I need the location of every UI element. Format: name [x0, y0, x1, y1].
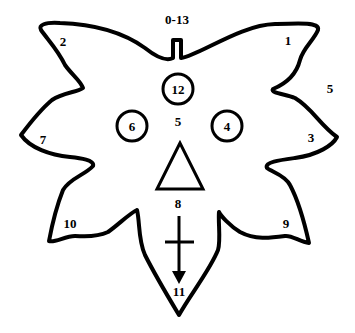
label-6: 6 — [129, 119, 136, 134]
label-12: 12 — [172, 82, 185, 97]
label-top: 0-13 — [165, 12, 189, 27]
label-4: 4 — [224, 119, 231, 134]
label-7: 7 — [40, 132, 47, 147]
leaf-diagram: 0-13 1 2 5 3 7 12 6 4 5 8 10 9 11 — [0, 0, 355, 333]
label-1: 1 — [285, 33, 292, 48]
label-9: 9 — [283, 216, 290, 231]
label-5-outer: 5 — [327, 81, 334, 96]
label-10: 10 — [64, 216, 77, 231]
label-3: 3 — [308, 130, 315, 145]
label-2: 2 — [60, 34, 67, 49]
label-8: 8 — [175, 196, 182, 211]
triangle-icon — [157, 143, 203, 189]
label-11: 11 — [173, 284, 185, 299]
cross-arrow-icon — [165, 216, 194, 284]
label-5-center: 5 — [175, 114, 182, 129]
